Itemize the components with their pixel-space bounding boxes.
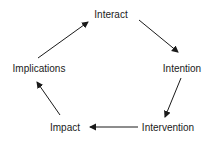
node-impact: Impact: [50, 123, 80, 133]
node-intention: Intention: [163, 64, 201, 74]
arrow-impact-to-implications: [37, 82, 60, 115]
node-interact: Interact: [94, 10, 127, 20]
arrow-implications-to-interact: [38, 22, 88, 58]
node-implications: Implications: [13, 64, 66, 74]
arrow-interact-to-intention: [139, 20, 178, 52]
node-intervention: Intervention: [142, 123, 194, 133]
cycle-diagram: Interact Intention Intervention Impact I…: [0, 0, 211, 141]
arrow-intention-to-intervention: [165, 78, 181, 117]
